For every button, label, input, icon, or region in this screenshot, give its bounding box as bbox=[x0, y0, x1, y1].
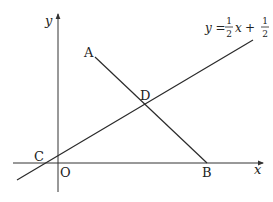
svg-text:2: 2 bbox=[226, 29, 232, 39]
point-a-label: A bbox=[83, 45, 94, 60]
line-equation-label: y = 1 2 x + 1 2 bbox=[204, 16, 269, 39]
origin-label: O bbox=[60, 165, 71, 180]
coordinate-diagram: y x O A B C D y = 1 2 x + 1 2 bbox=[0, 0, 273, 202]
svg-text:+: + bbox=[245, 21, 255, 35]
svg-text:1: 1 bbox=[226, 16, 232, 26]
svg-text:1: 1 bbox=[262, 16, 268, 26]
svg-text:y =: y = bbox=[204, 21, 226, 35]
y-axis-label: y bbox=[44, 13, 53, 28]
x-axis-label: x bbox=[254, 162, 262, 177]
point-b-label: B bbox=[202, 165, 212, 180]
point-d-label: D bbox=[140, 88, 150, 103]
svg-text:2: 2 bbox=[262, 29, 268, 39]
segment-ab bbox=[95, 57, 207, 163]
point-c-label: C bbox=[34, 149, 44, 164]
svg-text:x: x bbox=[235, 21, 242, 35]
line-y-half-x-plus-half bbox=[17, 40, 253, 180]
